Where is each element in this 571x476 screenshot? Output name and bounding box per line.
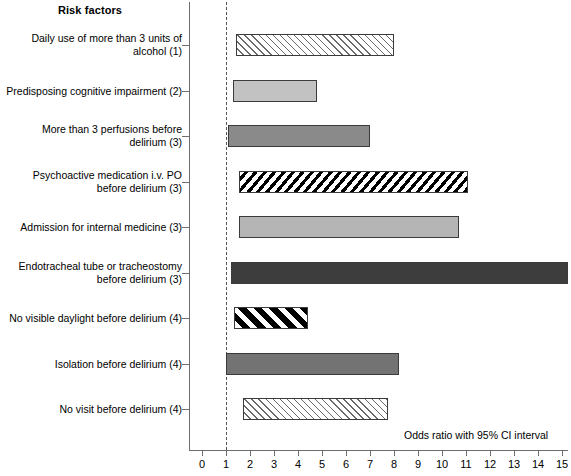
x-axis-tick-label: 8 [382,458,406,470]
x-axis-tick [490,450,491,456]
category-label: Isolation before delirium (4) [4,358,182,371]
category-tick [182,227,189,228]
chart-row: No visit before delirium (4) [0,387,571,433]
chart-row: Daily use of more than 3 units ofalcohol… [0,23,571,69]
x-axis-tick-label: 1 [214,458,238,470]
x-axis-tick [442,450,443,456]
category-tick [182,409,189,410]
category-label: Daily use of more than 3 units ofalcohol… [4,32,182,58]
ci-bar [243,398,388,420]
chart-row: Isolation before delirium (4) [0,342,571,388]
x-axis-tick [226,450,227,456]
chart-row: No visible daylight before delirium (4) [0,296,571,342]
x-axis-tick [250,450,251,456]
category-tick [182,45,189,46]
page-title: Risk factors [0,4,180,16]
x-axis-tick-label: 14 [526,458,550,470]
axis-annotation: Odds ratio with 95% CI interval [404,429,548,441]
x-axis-tick [370,450,371,456]
x-axis-tick-label: 3 [262,458,286,470]
x-axis-tick-label: 10 [430,458,454,470]
category-label-line: alcohol (1) [4,45,182,58]
x-axis-tick [538,450,539,456]
x-axis-tick [346,450,347,456]
x-axis-tick [202,450,203,456]
ci-bar [226,353,399,375]
x-axis-tick [418,450,419,456]
category-label-line: Psychoactive medication i.v. PO [4,169,182,182]
x-axis-tick [394,450,395,456]
ci-bar [239,171,468,193]
x-axis-tick-label: 15 [550,458,571,470]
chart-row: Predisposing cognitive impairment (2) [0,69,571,115]
x-axis-tick-label: 2 [238,458,262,470]
x-axis-tick [514,450,515,456]
ci-bar-pattern [239,171,468,193]
x-axis-tick-label: 4 [286,458,310,470]
x-axis-tick-label: 7 [358,458,382,470]
category-label-line: before delirium (3) [4,182,182,195]
category-label-line: delirium (3) [4,136,182,149]
category-label-line: Admission for internal medicine (3) [4,221,182,234]
category-tick [182,91,189,92]
x-axis-tick [322,450,323,456]
category-tick [182,318,189,319]
category-label-line: before delirium (3) [4,273,182,286]
category-label-line: Predisposing cognitive impairment (2) [4,85,182,98]
category-label-line: Daily use of more than 3 units of [4,32,182,45]
x-axis-tick-label: 5 [310,458,334,470]
category-label: Predisposing cognitive impairment (2) [4,85,182,98]
x-axis-tick [274,450,275,456]
ci-bar [233,80,317,102]
chart-row: Psychoactive medication i.v. PObefore de… [0,160,571,206]
category-label: Psychoactive medication i.v. PObefore de… [4,169,182,195]
category-tick [182,273,189,274]
ci-bar [239,216,459,238]
category-label: No visit before delirium (4) [4,403,182,416]
x-axis-tick [298,450,299,456]
ci-bar [234,307,307,329]
category-tick [182,182,189,183]
category-label: Admission for internal medicine (3) [4,221,182,234]
category-label: More than 3 perfusions beforedelirium (3… [4,123,182,149]
chart-row: More than 3 perfusions beforedelirium (3… [0,114,571,160]
x-axis-tick [466,450,467,456]
category-label-line: No visible daylight before delirium (4) [4,312,182,325]
x-axis-tick-label: 11 [454,458,478,470]
x-axis-line [189,450,568,451]
x-axis-tick-label: 6 [334,458,358,470]
chart-row: Endotracheal tube or tracheostomybefore … [0,251,571,297]
ci-bar [228,125,370,147]
category-tick [182,364,189,365]
ci-bar [231,262,568,284]
category-tick [182,136,189,137]
category-label: No visible daylight before delirium (4) [4,312,182,325]
x-axis-tick-label: 0 [190,458,214,470]
x-axis-tick-label: 9 [406,458,430,470]
category-label-line: Isolation before delirium (4) [4,358,182,371]
category-label-line: No visit before delirium (4) [4,403,182,416]
x-axis-tick-label: 12 [478,458,502,470]
x-axis-tick [562,450,563,456]
category-label-line: More than 3 perfusions before [4,123,182,136]
category-label-line: Endotracheal tube or tracheostomy [4,260,182,273]
chart-row: Admission for internal medicine (3) [0,205,571,251]
ci-bar [236,34,394,56]
x-axis-tick-label: 13 [502,458,526,470]
odds-ratio-bar-chart: Risk factors Daily use of more than 3 un… [0,0,571,476]
category-label: Endotracheal tube or tracheostomybefore … [4,260,182,286]
